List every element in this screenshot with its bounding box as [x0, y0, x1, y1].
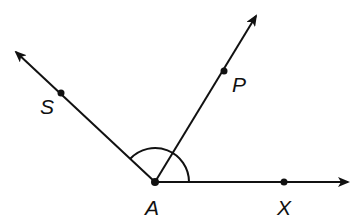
- ray-AP: [155, 16, 256, 182]
- point-S: [58, 90, 65, 97]
- geometry-diagram: S P X A: [0, 0, 355, 223]
- label-S: S: [40, 95, 54, 118]
- label-X: X: [276, 196, 292, 219]
- ray-AS: [16, 52, 155, 182]
- angle-arc-SAX: [130, 148, 189, 182]
- label-P: P: [232, 73, 246, 96]
- point-X: [281, 179, 288, 186]
- point-A: [151, 178, 159, 186]
- label-A: A: [143, 196, 159, 219]
- point-P: [221, 68, 228, 75]
